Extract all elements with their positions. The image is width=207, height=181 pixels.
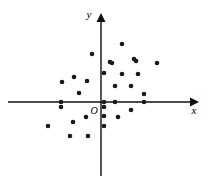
data-point: [102, 124, 107, 129]
data-point: [77, 91, 82, 96]
data-point: [136, 72, 141, 77]
data-point: [68, 134, 73, 139]
data-point: [85, 79, 90, 84]
data-point: [102, 100, 107, 105]
data-point: [84, 115, 89, 120]
data-point: [71, 120, 76, 125]
axes-group: [8, 13, 199, 176]
y-axis-label: y: [86, 8, 92, 20]
scatter-plot-figure: y x O: [0, 0, 207, 181]
y-axis-arrowhead: [97, 13, 106, 22]
data-point: [110, 61, 115, 66]
data-point: [59, 105, 64, 110]
data-point: [59, 100, 64, 105]
data-point: [155, 61, 160, 66]
x-axis-label: x: [191, 104, 197, 116]
coordinate-plane: y x O: [0, 0, 207, 181]
data-point: [113, 100, 118, 105]
data-point: [113, 84, 118, 89]
data-point: [102, 114, 107, 119]
data-point: [116, 115, 121, 120]
data-point: [132, 57, 137, 62]
data-point: [142, 92, 147, 97]
data-point: [90, 52, 95, 57]
data-point: [142, 100, 147, 105]
data-point: [46, 124, 51, 129]
data-points-layer: [46, 42, 160, 139]
data-point: [129, 108, 134, 113]
data-point: [120, 72, 125, 77]
data-point: [86, 134, 91, 139]
data-point: [129, 84, 134, 89]
data-point: [102, 105, 107, 110]
data-point: [72, 75, 77, 80]
origin-label: O: [90, 105, 97, 116]
data-point: [120, 42, 125, 47]
data-point: [102, 71, 107, 76]
data-point: [60, 80, 65, 85]
